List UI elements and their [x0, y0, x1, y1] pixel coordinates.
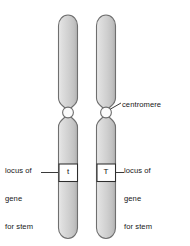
right-locus-line-2: gene	[124, 194, 158, 203]
right-allele-symbol: T	[96, 168, 116, 176]
centromere-label: centromere	[122, 100, 161, 109]
left-centromere-circle	[63, 107, 74, 118]
left-chromosome	[59, 15, 78, 239]
left-allele-symbol: t	[58, 168, 78, 176]
right-chromosome	[97, 15, 116, 239]
left-locus-line-2: gene	[5, 194, 40, 203]
left-locus-line-3: for stem	[5, 222, 40, 231]
diagram-canvas: centromere locus of gene for stem length…	[0, 0, 190, 246]
left-chromosome-upper-arm	[59, 15, 78, 108]
right-centromere-circle	[101, 107, 112, 118]
right-chromosome-upper-arm	[97, 15, 116, 108]
right-locus-line-1: locus of	[124, 166, 158, 175]
right-locus-line-3: for stem	[124, 222, 158, 231]
right-locus-label: locus of gene for stem length (dominant …	[124, 147, 158, 246]
left-locus-label: locus of gene for stem length (recessive…	[5, 147, 40, 246]
left-locus-line-1: locus of	[5, 166, 40, 175]
